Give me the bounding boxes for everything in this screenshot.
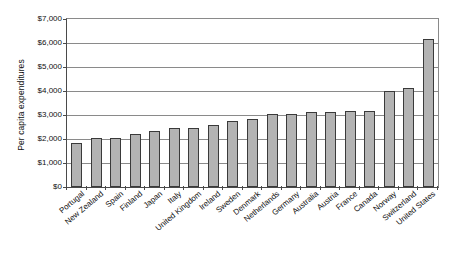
y-axis-tick-mark <box>63 91 67 92</box>
bar <box>247 119 258 187</box>
y-axis-tick-label: $6,000 <box>26 38 62 47</box>
bar <box>306 112 317 187</box>
bar <box>286 114 297 187</box>
y-axis-tick-label: $3,000 <box>26 110 62 119</box>
bar <box>384 91 395 187</box>
y-axis-tick-label: $7,000 <box>26 14 62 23</box>
y-axis-tick-mark <box>63 67 67 68</box>
bar <box>403 88 414 187</box>
y-axis-tick-label: $4,000 <box>26 86 62 95</box>
bar <box>91 138 102 187</box>
plot-area <box>66 18 439 188</box>
bar <box>169 128 180 187</box>
bars-container <box>67 19 438 187</box>
bar <box>364 111 375 187</box>
bar <box>267 114 278 187</box>
x-axis-category-label: Austria <box>316 190 340 212</box>
y-axis-tick-label: $5,000 <box>26 62 62 71</box>
bar <box>188 128 199 187</box>
y-axis-title-text: Per capita expenditures <box>16 59 26 151</box>
bar <box>71 143 82 187</box>
bar <box>130 134 141 187</box>
bar <box>345 111 356 187</box>
y-axis-tick-mark <box>63 163 67 164</box>
bar <box>149 131 160 187</box>
bar <box>227 121 238 187</box>
y-axis-tick-mark <box>63 19 67 20</box>
bar <box>423 39 434 187</box>
y-axis-tick-label: $1,000 <box>26 158 62 167</box>
bar <box>208 125 219 187</box>
x-axis-category-labels: PortugalNew ZealandSpainFinlandJapanItal… <box>0 190 453 258</box>
x-axis-category-label: Japan <box>142 190 164 210</box>
y-axis-tick-label: $2,000 <box>26 134 62 143</box>
bar <box>325 112 336 187</box>
bar <box>110 138 121 187</box>
y-axis-tick-mark <box>63 115 67 116</box>
y-axis-tick-mark <box>63 43 67 44</box>
y-axis-tick-labels: $0$1,000$2,000$3,000$4,000$5,000$6,000$7… <box>26 12 62 192</box>
y-axis-tick-mark <box>63 139 67 140</box>
bar-chart-figure: Per capita expenditures $0$1,000$2,000$3… <box>0 0 453 259</box>
